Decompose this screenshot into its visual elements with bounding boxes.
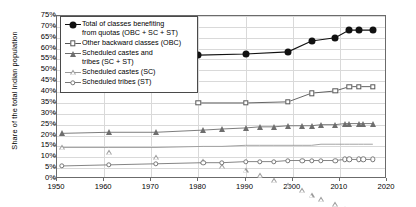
- legend-marker-icon: [64, 20, 82, 29]
- x-axis-tick-mark: [386, 178, 387, 181]
- legend-item: Total of classes benefiting from quotas …: [64, 20, 194, 37]
- data-point: [243, 125, 249, 131]
- data-point: [271, 178, 277, 183]
- data-point: [309, 90, 314, 95]
- x-axis-tick-label: 2020: [366, 182, 406, 191]
- data-point: [332, 122, 338, 128]
- data-point: [332, 202, 338, 207]
- data-point: [243, 100, 248, 105]
- data-point: [346, 121, 352, 127]
- data-point: [355, 27, 362, 34]
- data-point: [106, 129, 112, 135]
- y-axis-tick-label: 65%: [24, 33, 56, 41]
- data-point: [332, 34, 339, 41]
- y-axis-tick-label: 75%: [24, 11, 56, 19]
- data-point: [59, 130, 65, 136]
- x-axis-tick-mark: [197, 178, 198, 181]
- data-point: [59, 145, 65, 150]
- data-point: [219, 126, 225, 132]
- data-point: [106, 150, 112, 155]
- y-axis-tick-label: 45%: [24, 76, 56, 84]
- legend-marker-icon: [64, 68, 82, 77]
- x-axis-tick-label: 1950: [36, 182, 76, 191]
- data-point: [360, 121, 366, 127]
- y-axis-tick-label: 40%: [24, 87, 56, 95]
- y-axis-tick-label: 15%: [24, 141, 56, 149]
- data-point: [285, 48, 292, 55]
- legend-item: Other backward classes (OBC): [64, 39, 194, 48]
- data-point: [332, 88, 337, 93]
- data-point: [285, 123, 291, 129]
- data-point: [369, 27, 376, 34]
- legend-item-label: Scheduled tribes (ST): [82, 78, 152, 87]
- x-axis-tick-label: 1960: [83, 182, 123, 191]
- x-axis-tick-mark: [103, 178, 104, 181]
- y-axis-tick-label: 5%: [24, 163, 56, 171]
- x-axis-tick-mark: [292, 178, 293, 181]
- data-point: [370, 121, 376, 127]
- data-point: [153, 155, 159, 160]
- data-point: [299, 188, 305, 193]
- y-axis-tick-label: 70%: [24, 22, 56, 30]
- legend-item-label: Scheduled castes (SC): [82, 68, 156, 77]
- x-axis-tick-mark: [150, 178, 151, 181]
- x-axis-tick-label: 2000: [272, 182, 312, 191]
- legend-marker-icon: [64, 49, 82, 58]
- legend-item-label: Scheduled castes and tribes (SC + ST): [82, 49, 153, 66]
- y-axis-tick-label: 60%: [24, 44, 56, 52]
- data-point: [299, 123, 305, 129]
- y-axis-tick-label: 50%: [24, 65, 56, 73]
- legend-marker-icon: [64, 78, 82, 87]
- y-axis-tick-label: 30%: [24, 109, 56, 117]
- legend-item: Scheduled tribes (ST): [64, 78, 194, 87]
- data-point: [257, 173, 263, 178]
- legend-item: Scheduled castes (SC): [64, 68, 194, 77]
- data-point: [308, 37, 315, 44]
- data-point: [285, 183, 291, 188]
- data-point: [153, 129, 159, 135]
- y-axis-tick-label: 55%: [24, 54, 56, 62]
- data-point: [309, 193, 315, 198]
- data-point: [200, 127, 206, 133]
- data-point: [370, 84, 375, 89]
- x-axis-tick-mark: [245, 178, 246, 181]
- data-point: [257, 124, 263, 130]
- x-axis-tick-mark: [339, 178, 340, 181]
- y-axis-tick-label: 25%: [24, 120, 56, 128]
- x-axis-tick-label: 1980: [177, 182, 217, 191]
- y-axis-title: Share of the total Indian population: [10, 16, 19, 166]
- y-axis-tick-label: 0%: [24, 174, 56, 182]
- legend-item: Scheduled castes and tribes (SC + ST): [64, 49, 194, 66]
- x-axis-tick-mark: [56, 178, 57, 181]
- legend-item-label: Other backward classes (OBC): [82, 39, 181, 48]
- data-point: [318, 197, 324, 202]
- data-point: [346, 27, 353, 34]
- legend-item-label: Total of classes benefiting from quotas …: [82, 20, 178, 37]
- data-point: [318, 122, 324, 128]
- y-axis-tick-label: 10%: [24, 152, 56, 160]
- data-point: [309, 123, 315, 129]
- data-point: [285, 99, 290, 104]
- y-axis-tick-label: 35%: [24, 98, 56, 106]
- x-axis-tick-label: 1970: [130, 182, 170, 191]
- data-point: [347, 84, 352, 89]
- chart-container: Share of the total Indian population 0%5…: [0, 0, 416, 207]
- data-point: [271, 124, 277, 130]
- data-point: [242, 51, 249, 58]
- x-axis-tick-label: 2010: [319, 182, 359, 191]
- data-point: [356, 84, 361, 89]
- data-point: [243, 168, 249, 173]
- series-line: [62, 144, 373, 147]
- data-point: [196, 100, 201, 105]
- x-axis-tick-label: 1990: [225, 182, 265, 191]
- chart-legend: Total of classes benefiting from quotas …: [60, 16, 198, 93]
- y-axis-tick-label: 20%: [24, 131, 56, 139]
- legend-marker-icon: [64, 39, 82, 48]
